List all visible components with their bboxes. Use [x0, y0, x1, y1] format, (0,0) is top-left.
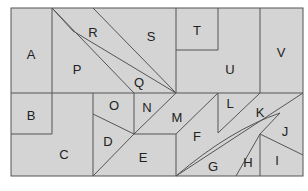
- label-S: S: [147, 30, 156, 43]
- label-H: H: [243, 156, 252, 169]
- outer-frame: [11, 8, 303, 176]
- label-K: K: [256, 106, 265, 119]
- label-M: M: [172, 111, 183, 124]
- label-A: A: [27, 48, 36, 61]
- label-J: J: [282, 125, 289, 138]
- label-D: D: [103, 135, 112, 148]
- label-O: O: [109, 99, 119, 112]
- label-U: U: [225, 63, 234, 76]
- label-N: N: [142, 101, 151, 114]
- label-I: I: [275, 154, 279, 167]
- label-L: L: [226, 97, 233, 110]
- label-C: C: [59, 148, 68, 161]
- label-Q: Q: [134, 76, 144, 89]
- label-G: G: [208, 160, 218, 173]
- label-P: P: [73, 63, 82, 76]
- label-V: V: [277, 46, 286, 59]
- label-F: F: [193, 130, 201, 143]
- label-B: B: [27, 109, 36, 122]
- label-E: E: [139, 151, 148, 164]
- label-R: R: [88, 26, 97, 39]
- label-T: T: [193, 24, 201, 37]
